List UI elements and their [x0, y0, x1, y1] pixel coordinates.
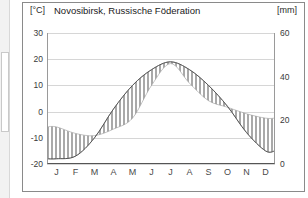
chart-header: [°C] Novosibirsk, Russische Föderation […	[23, 3, 304, 21]
precipitation-band	[47, 62, 275, 159]
x-axis-tick-label: J	[164, 167, 178, 177]
right-axis-unit-label: [mm]	[277, 5, 297, 15]
y-axis-right-tick-label: 40	[280, 72, 302, 82]
gridline	[47, 164, 275, 165]
left-axis-unit-label: [°C]	[30, 5, 45, 15]
x-axis-tick-label: J	[50, 167, 64, 177]
y-axis-right-tick-label: 60	[280, 28, 302, 38]
y-axis-left-tick-label: 0	[23, 107, 43, 117]
page-title: Novosibirsk, Russische Föderation	[54, 5, 200, 16]
x-axis-tick-label: D	[259, 167, 273, 177]
y-axis-left-tick-label: -20	[23, 159, 43, 169]
left-scrollbar-gutter[interactable]	[0, 0, 10, 198]
chart-plot-area	[47, 33, 275, 164]
x-axis-tick-label: A	[107, 167, 121, 177]
x-axis-tick-label: F	[69, 167, 83, 177]
x-axis-tick-label: M	[126, 167, 140, 177]
y-axis-left-tick-label: 20	[23, 54, 43, 64]
y-axis-right-tick-label: 0	[280, 159, 302, 169]
y-axis-left-tick-label: 10	[23, 80, 43, 90]
x-axis-tick-label: N	[240, 167, 254, 177]
scrollbar-thumb[interactable]	[1, 52, 9, 132]
x-axis-tick-label: A	[183, 167, 197, 177]
y-axis-left-tick-label: 30	[23, 28, 43, 38]
chart-card: [°C] Novosibirsk, Russische Föderation […	[22, 2, 305, 192]
climate-chart-screenshot: [°C] Novosibirsk, Russische Föderation […	[0, 0, 308, 198]
x-axis-tick-label: M	[88, 167, 102, 177]
x-axis-tick-label: S	[202, 167, 216, 177]
x-axis-tick-label: J	[145, 167, 159, 177]
x-axis-tick-label: O	[221, 167, 235, 177]
y-axis-right-tick-label: 20	[280, 115, 302, 125]
y-axis-left-tick-label: -10	[23, 133, 43, 143]
